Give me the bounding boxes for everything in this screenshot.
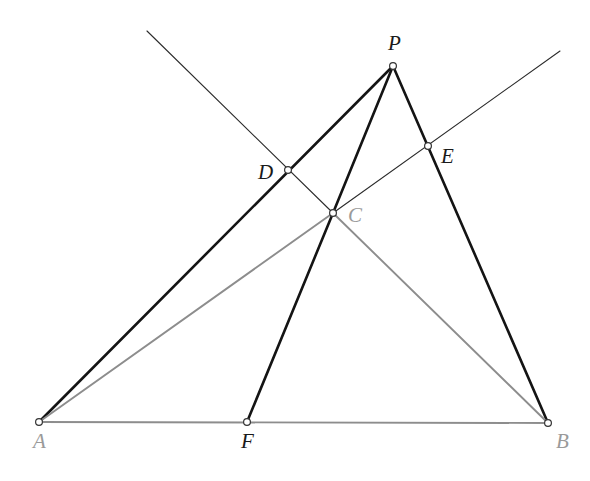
vertex-label-c: C [348,203,363,227]
vertex-label-e: E [440,144,454,168]
vertex-label-p: P [387,31,401,55]
vertex-marker-e[interactable] [425,143,432,150]
vertex-marker-a[interactable] [36,419,43,426]
vertex-label-b: B [556,429,569,453]
vertex-marker-c[interactable] [330,210,337,217]
vertex-label-a: A [31,429,46,453]
geometry-canvas: ABCDEFP [0,0,590,481]
vertex-label-d: D [257,160,273,184]
geometry-figure: ABCDEFP [0,0,590,481]
vertex-label-f: F [240,429,254,453]
segment-A-B [39,422,548,423]
vertex-marker-p[interactable] [390,63,397,70]
vertex-marker-b[interactable] [545,420,552,427]
vertex-marker-d[interactable] [285,167,292,174]
vertex-marker-f[interactable] [244,419,251,426]
